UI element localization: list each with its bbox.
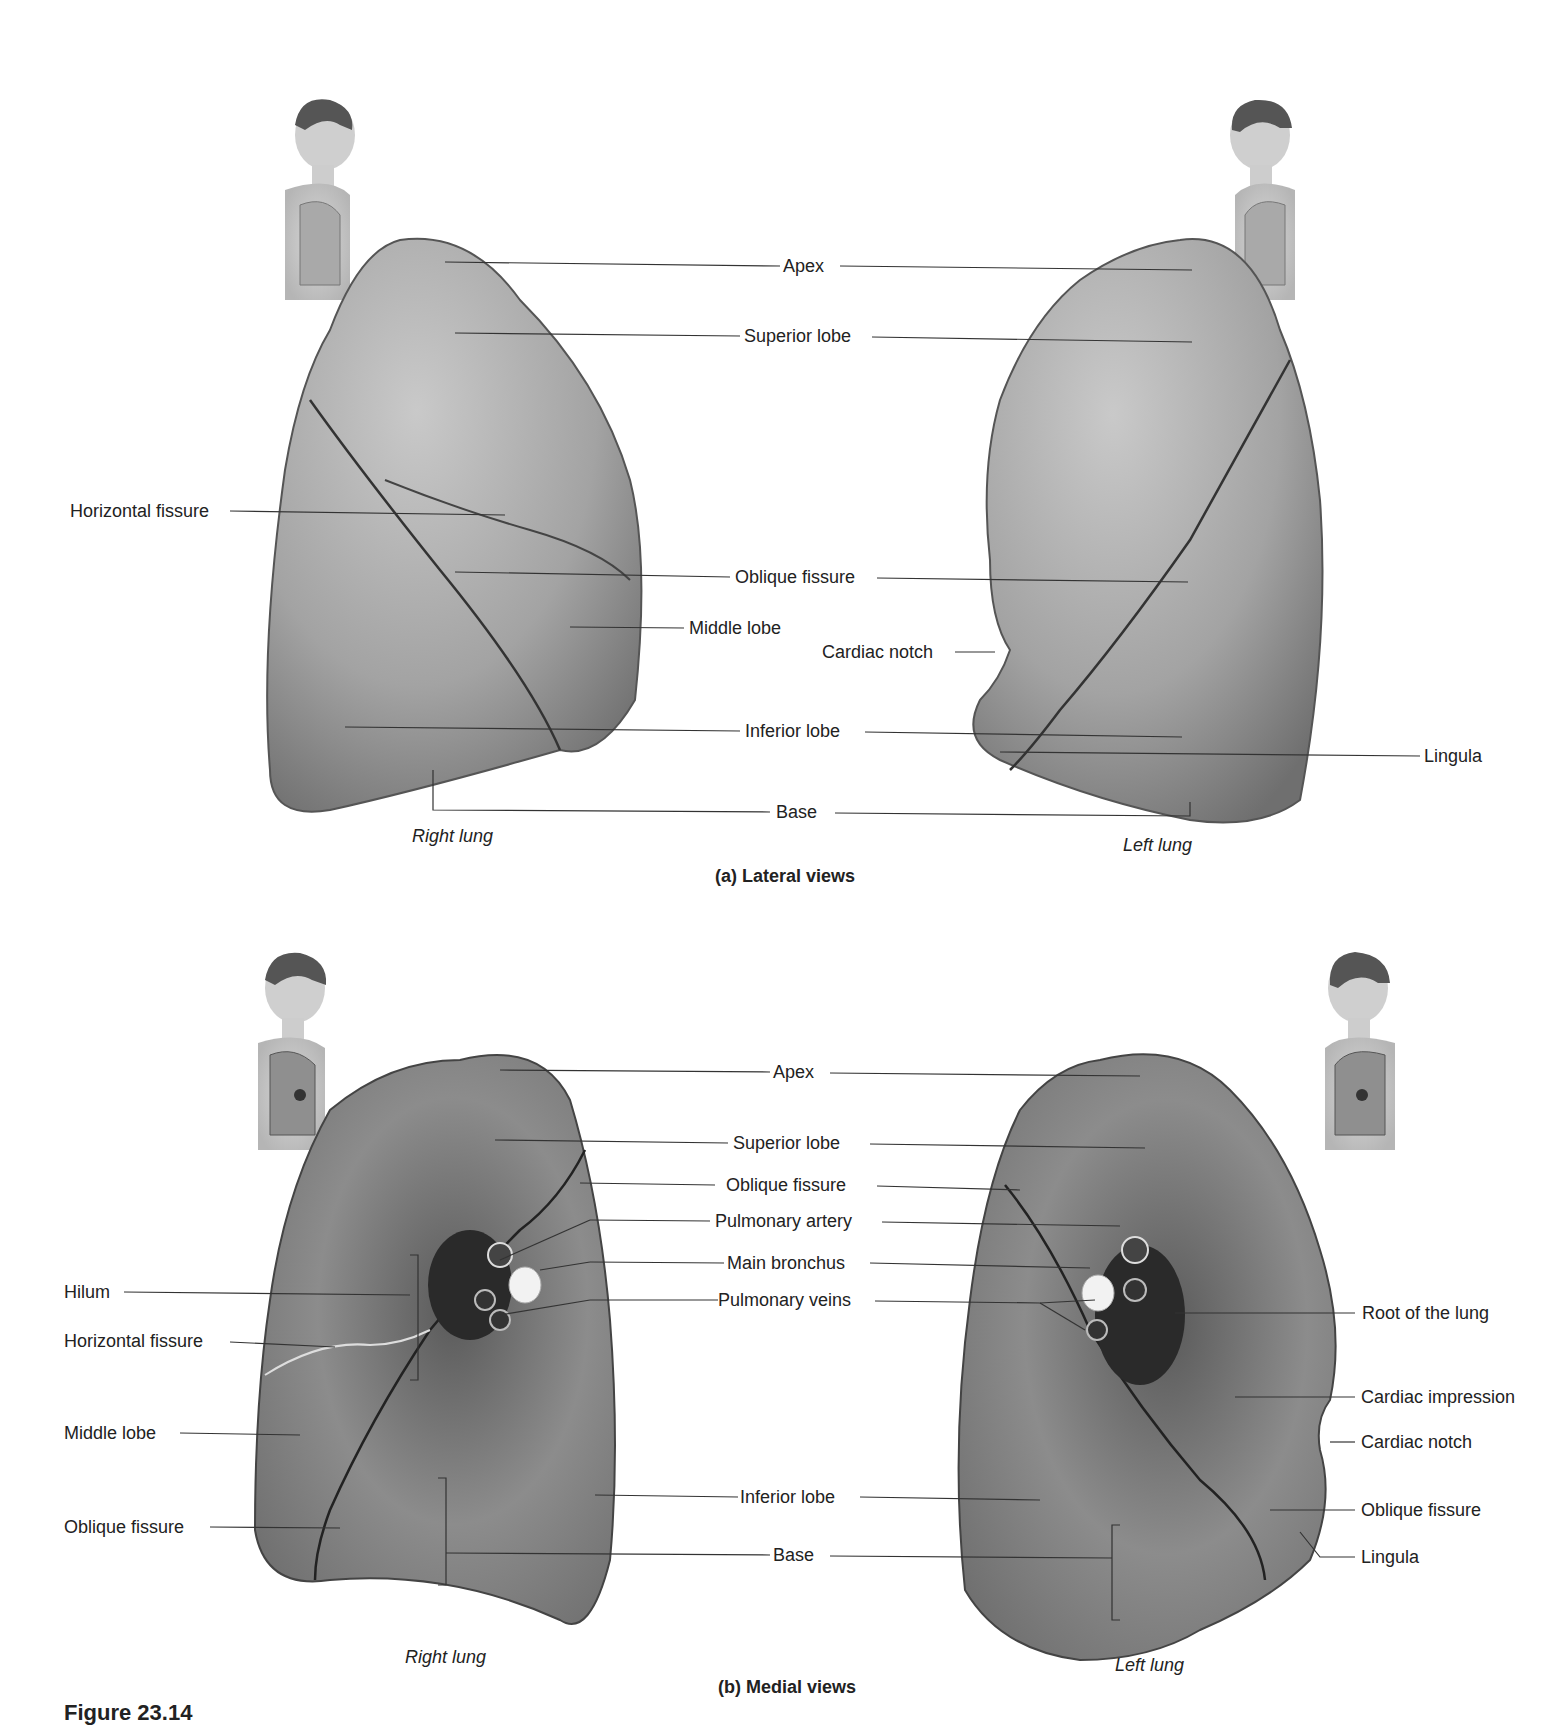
label-apex-medial: Apex bbox=[773, 1062, 814, 1082]
left-lung-medial bbox=[959, 1054, 1336, 1660]
label-cardiac-impression: Cardiac impression bbox=[1361, 1387, 1515, 1407]
label-inferior-lobe-lateral: Inferior lobe bbox=[745, 721, 840, 741]
label-left-lung-medial: Left lung bbox=[1115, 1655, 1184, 1675]
label-superior-lobe-lateral: Superior lobe bbox=[744, 326, 851, 346]
label-oblique-fissure-medial-left: Oblique fissure bbox=[64, 1517, 184, 1537]
label-root-of-lung: Root of the lung bbox=[1362, 1303, 1489, 1323]
label-right-lung-lateral: Right lung bbox=[412, 826, 493, 846]
label-pulmonary-artery: Pulmonary artery bbox=[715, 1211, 852, 1231]
label-middle-lobe-medial: Middle lobe bbox=[64, 1423, 156, 1443]
label-lingula-medial: Lingula bbox=[1361, 1547, 1419, 1567]
label-middle-lobe-lateral: Middle lobe bbox=[689, 618, 781, 638]
label-right-lung-medial: Right lung bbox=[405, 1647, 486, 1667]
label-oblique-fissure-medial-right: Oblique fissure bbox=[1361, 1500, 1481, 1520]
person-thumbnail-left-medial bbox=[1325, 952, 1395, 1150]
figure-number: Figure 23.14 bbox=[64, 1700, 192, 1726]
label-cardiac-notch-medial: Cardiac notch bbox=[1361, 1432, 1472, 1452]
label-pulmonary-veins: Pulmonary veins bbox=[718, 1290, 851, 1310]
person-thumbnail-right-lateral bbox=[285, 99, 355, 300]
label-hilum: Hilum bbox=[64, 1282, 110, 1302]
label-base-lateral: Base bbox=[776, 802, 817, 822]
label-horizontal-fissure-medial: Horizontal fissure bbox=[64, 1331, 203, 1351]
label-oblique-fissure-lateral: Oblique fissure bbox=[735, 567, 855, 587]
label-inferior-lobe-medial: Inferior lobe bbox=[740, 1487, 835, 1507]
caption-medial-views: (b) Medial views bbox=[718, 1677, 856, 1698]
label-left-lung-lateral: Left lung bbox=[1123, 835, 1192, 855]
right-lung-lateral bbox=[267, 239, 641, 812]
label-base-medial: Base bbox=[773, 1545, 814, 1565]
label-apex-lateral: Apex bbox=[783, 256, 824, 276]
label-cardiac-notch-lateral: Cardiac notch bbox=[822, 642, 933, 662]
label-horizontal-fissure-lateral: Horizontal fissure bbox=[70, 501, 209, 521]
label-oblique-fissure-medial: Oblique fissure bbox=[726, 1175, 846, 1195]
label-lingula-lateral: Lingula bbox=[1424, 746, 1482, 766]
label-superior-lobe-medial: Superior lobe bbox=[733, 1133, 840, 1153]
caption-lateral-views: (a) Lateral views bbox=[715, 866, 855, 887]
person-thumbnail-right-medial bbox=[258, 953, 326, 1150]
label-main-bronchus: Main bronchus bbox=[727, 1253, 845, 1273]
